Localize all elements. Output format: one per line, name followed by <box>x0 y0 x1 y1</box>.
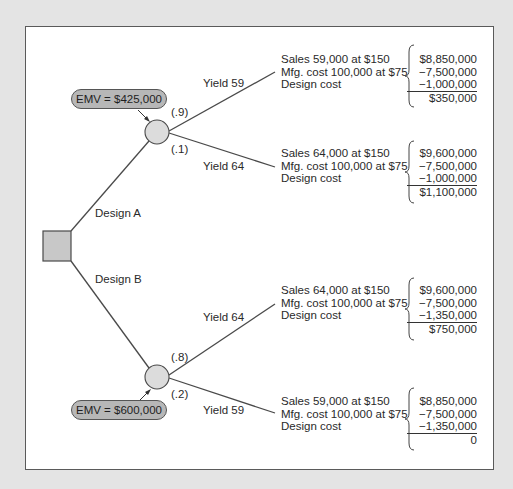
outcome-b-yield64-values: $9,600,000 −7,500,000 −1,350,000 $750,00… <box>407 284 477 335</box>
sales-line: Sales 59,000 at $150 <box>281 53 408 66</box>
design-cost-value: −1,350,000 <box>407 309 477 323</box>
sales-value: $8,850,000 <box>407 53 477 66</box>
design-cost-line: Design cost <box>281 309 408 322</box>
design-cost-line: Design cost <box>281 420 408 433</box>
outcome-a-yield59-values: $8,850,000 −7,500,000 −1,000,000 $350,00… <box>407 53 477 104</box>
net-total: $350,000 <box>407 92 477 105</box>
design-cost-line: Design cost <box>281 172 408 185</box>
sales-line: Sales 64,000 at $150 <box>281 284 408 297</box>
yield-label-b-64: Yield 64 <box>203 311 244 324</box>
probability-a-yield64: (.1) <box>171 143 188 156</box>
outcome-b-yield59-description: Sales 59,000 at $150 Mfg. cost 100,000 a… <box>281 395 408 433</box>
chance-node-a <box>145 120 169 144</box>
mfg-cost-value: −7,500,000 <box>407 408 477 421</box>
yield-label-b-59: Yield 59 <box>203 404 244 417</box>
design-cost-value: −1,350,000 <box>407 420 477 434</box>
outcome-b-yield59-values: $8,850,000 −7,500,000 −1,350,000 0 <box>407 395 477 446</box>
design-cost-line: Design cost <box>281 78 408 91</box>
mfg-cost-value: −7,500,000 <box>407 66 477 79</box>
mfg-cost-line: Mfg. cost 100,000 at $75 <box>281 66 408 79</box>
probability-b-yield64: (.8) <box>171 351 188 364</box>
mfg-cost-line: Mfg. cost 100,000 at $75 <box>281 160 408 173</box>
net-total: $1,100,000 <box>407 186 477 199</box>
design-cost-value: −1,000,000 <box>407 172 477 186</box>
decision-node <box>43 231 71 261</box>
outcome-a-yield64-description: Sales 64,000 at $150 Mfg. cost 100,000 a… <box>281 147 408 185</box>
sales-value: $9,600,000 <box>407 147 477 160</box>
yield-label-a-64: Yield 64 <box>203 160 244 173</box>
emv-label-design-a: EMV = $425,000 <box>71 89 167 109</box>
sales-line: Sales 59,000 at $150 <box>281 395 408 408</box>
outcome-a-yield59-description: Sales 59,000 at $150 Mfg. cost 100,000 a… <box>281 53 408 91</box>
net-total: $750,000 <box>407 323 477 336</box>
yield-label-a-59: Yield 59 <box>203 77 244 90</box>
mfg-cost-value: −7,500,000 <box>407 297 477 310</box>
design-b-label: Design B <box>95 273 142 286</box>
outcome-b-yield64-description: Sales 64,000 at $150 Mfg. cost 100,000 a… <box>281 284 408 322</box>
design-a-label: Design A <box>95 207 141 220</box>
design-cost-value: −1,000,000 <box>407 78 477 92</box>
probability-a-yield59: (.9) <box>171 106 188 119</box>
mfg-cost-line: Mfg. cost 100,000 at $75 <box>281 408 408 421</box>
chance-node-b <box>145 365 169 389</box>
mfg-cost-line: Mfg. cost 100,000 at $75 <box>281 297 408 310</box>
mfg-cost-value: −7,500,000 <box>407 160 477 173</box>
sales-line: Sales 64,000 at $150 <box>281 147 408 160</box>
sales-value: $9,600,000 <box>407 284 477 297</box>
sales-value: $8,850,000 <box>407 395 477 408</box>
emv-label-design-b: EMV = $600,000 <box>71 400 167 420</box>
probability-b-yield59: (.2) <box>171 388 188 401</box>
net-total: 0 <box>407 434 477 447</box>
outcome-a-yield64-values: $9,600,000 −7,500,000 −1,000,000 $1,100,… <box>407 147 477 198</box>
